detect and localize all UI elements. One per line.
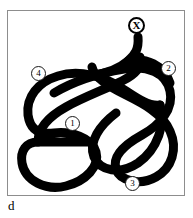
figure-caption: d bbox=[8, 199, 15, 212]
marker-crossing-3[interactable]: 3 bbox=[125, 176, 140, 191]
marker-crossing-2[interactable]: 2 bbox=[161, 61, 176, 76]
marker-crossing-4[interactable]: 4 bbox=[31, 66, 46, 81]
marker-endpoint-x[interactable]: X bbox=[128, 17, 145, 34]
figure-container: X 1 2 3 4 d bbox=[0, 0, 193, 218]
marker-crossing-1[interactable]: 1 bbox=[65, 116, 80, 131]
knot-diagram bbox=[8, 11, 186, 197]
figure-frame bbox=[7, 10, 185, 196]
